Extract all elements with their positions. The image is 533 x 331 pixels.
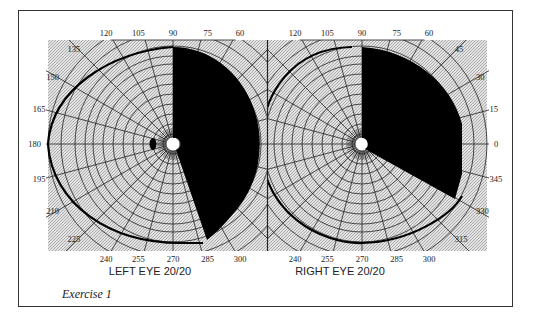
angle-label: 60 (236, 28, 245, 38)
angle-label: 105 (132, 28, 145, 38)
blind-spot (150, 138, 157, 150)
angle-label: 225 (67, 234, 80, 244)
angle-label: 285 (390, 254, 403, 264)
angle-label: 330 (476, 206, 489, 216)
angle-label: 255 (321, 254, 334, 264)
angle-label: 270 (356, 254, 369, 264)
angle-label: 240 (100, 254, 113, 264)
left-eye-title: LEFT EYE 20/20 (109, 265, 191, 277)
angle-label: 90 (169, 28, 178, 38)
angle-label: 75 (392, 28, 401, 38)
angle-label: 315 (455, 234, 468, 244)
angle-label: 30 (476, 72, 485, 82)
angle-label: 75 (203, 28, 212, 38)
angle-label: 210 (46, 206, 59, 216)
angle-label: 300 (234, 254, 247, 264)
angle-label: 90 (358, 28, 367, 38)
angle-label: 120 (289, 28, 302, 38)
angle-label: 300 (423, 254, 436, 264)
angle-label: 345 (489, 174, 502, 184)
angle-label: 285 (201, 254, 214, 264)
angle-label: 180 (28, 139, 41, 149)
angle-label: 195 (33, 174, 46, 184)
right-eye-title: RIGHT EYE 20/20 (295, 265, 385, 277)
angle-label: 150 (46, 72, 59, 82)
angle-label: 105 (321, 28, 334, 38)
angle-label: 255 (132, 254, 145, 264)
angle-label: 135 (67, 44, 80, 54)
visual-field-chart: 6075901051201351501651801952102252402552… (0, 0, 533, 331)
angle-label: 165 (33, 104, 46, 114)
angle-label: 45 (455, 44, 464, 54)
angle-label: 120 (100, 28, 113, 38)
angle-label: 15 (489, 104, 498, 114)
figure-caption: Exercise 1 (62, 287, 112, 302)
angle-label: 0 (494, 139, 498, 149)
angle-label: 60 (425, 28, 434, 38)
angle-label: 240 (289, 254, 302, 264)
angle-label: 270 (167, 254, 180, 264)
